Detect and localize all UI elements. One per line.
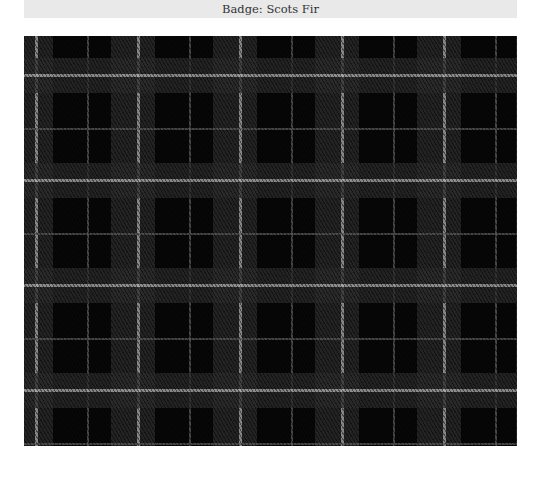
- badge-title: Badge: Scots Fir: [222, 2, 319, 16]
- tartan-twill-texture: [24, 36, 517, 446]
- tartan-pattern-image: [24, 36, 517, 446]
- badge-title-bar: Badge: Scots Fir: [24, 0, 517, 18]
